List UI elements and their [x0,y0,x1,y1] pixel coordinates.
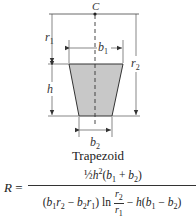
fraction-bar [28,185,196,186]
formula-lhs: R = [4,180,23,196]
formula-denominator: (b1r2 − b2r1) ln r2r1 − h(b1 − b2) [28,188,196,219]
formula-numerator: ½h2(b1 + b2) [30,167,196,184]
trapezoid-shape [69,64,123,116]
h-label: h [47,82,53,96]
center-label: C [92,0,100,12]
trapezoid-diagram: C r1 h r2 b1 b2 [0,0,196,150]
r1-label: r1 [45,30,54,46]
ln-fraction: r2r1 [114,188,124,219]
diagram-caption: Trapezoid [0,148,196,164]
resistance-formula: R = ½h2(b1 + b2) (b1r2 − b2r1) ln r2r1 −… [2,164,196,218]
